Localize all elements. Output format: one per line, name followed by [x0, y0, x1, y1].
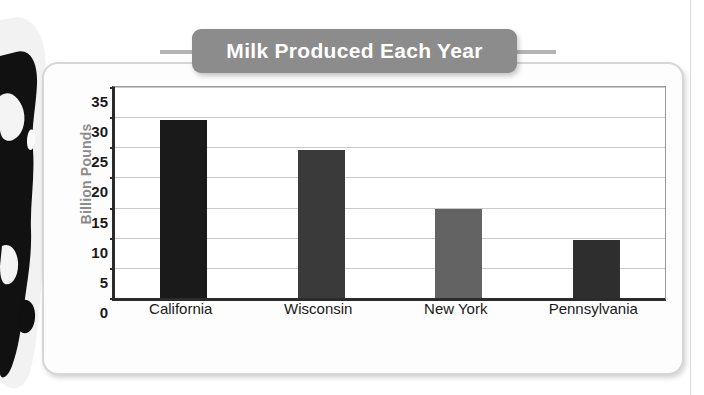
- chart-title-banner: Milk Produced Each Year: [192, 29, 517, 73]
- chart-card: Billion Pounds 05101520253035 California…: [42, 62, 684, 375]
- y-axis-tickmark: [110, 208, 115, 210]
- bar: [573, 240, 620, 298]
- y-axis-tick-label: 10: [70, 244, 108, 259]
- y-axis-tickmark: [110, 177, 115, 179]
- y-axis-tickmark: [110, 238, 115, 240]
- y-axis-tickmark: [110, 147, 115, 149]
- y-axis-tick-label: 20: [70, 184, 108, 199]
- bar: [435, 209, 482, 298]
- y-axis-tick-label: 15: [70, 214, 108, 229]
- y-axis-tick-label: 35: [70, 94, 108, 109]
- y-axis-tick-labels: 05101520253035: [70, 101, 108, 313]
- y-axis-tick-label: 30: [70, 124, 108, 139]
- plot-area: [112, 86, 666, 301]
- page-margin-rule: [690, 0, 691, 395]
- x-axis-tick-label: New York: [424, 300, 487, 317]
- gridline: [115, 87, 665, 88]
- y-axis-tick-label: 25: [70, 154, 108, 169]
- y-axis-tickmark: [110, 117, 115, 119]
- x-axis-tick-labels: CaliforniaWisconsinNew YorkPennsylvania: [112, 300, 664, 324]
- y-axis-tickmark: [110, 87, 115, 89]
- bar: [160, 120, 207, 298]
- chart-title: Milk Produced Each Year: [226, 39, 482, 63]
- chart-screenshot: Billion Pounds 05101520253035 California…: [0, 0, 704, 395]
- y-axis-tick-label: 5: [70, 274, 108, 289]
- gridline: [115, 117, 665, 118]
- x-axis-tick-label: Pennsylvania: [549, 300, 638, 317]
- x-axis-tick-label: Wisconsin: [284, 300, 352, 317]
- y-axis-tick-label: 0: [70, 305, 108, 320]
- y-axis-tickmark: [110, 268, 115, 270]
- x-axis-tick-label: California: [149, 300, 212, 317]
- bar: [298, 150, 345, 298]
